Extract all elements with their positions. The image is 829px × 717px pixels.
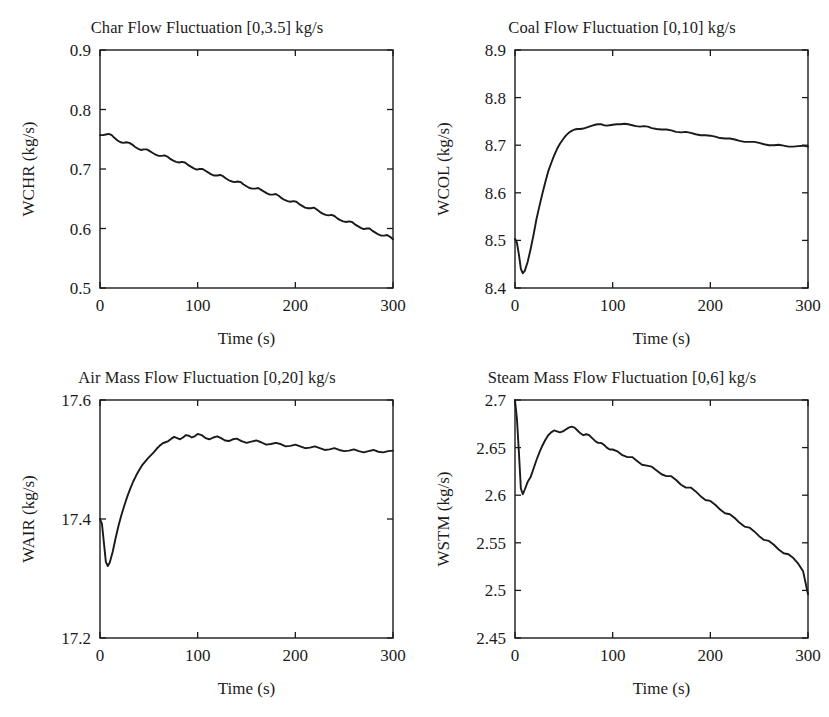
x-axis-label: Time (s) bbox=[633, 329, 690, 348]
data-line-wchr bbox=[100, 134, 393, 239]
y-tick-label: 8.8 bbox=[485, 89, 506, 108]
y-tick-label: 8.7 bbox=[485, 136, 507, 155]
y-tick-label: 2.7 bbox=[485, 391, 507, 410]
x-tick-label: 200 bbox=[698, 296, 724, 315]
y-tick-label: 2.55 bbox=[476, 534, 506, 553]
x-tick-label: 100 bbox=[185, 296, 211, 315]
x-tick-label: 200 bbox=[283, 296, 309, 315]
y-tick-label: 2.45 bbox=[476, 629, 506, 648]
plot-air-mass-flow: 010020030017.217.417.6Time (s)WAIR (kg/s… bbox=[0, 368, 414, 708]
chart-panel-char-flow: Char Flow Fluctuation [0,3.5] kg/s 01002… bbox=[0, 18, 414, 358]
y-axis-label: WSTM (kg/s) bbox=[434, 472, 453, 567]
y-tick-label: 8.6 bbox=[485, 184, 506, 203]
x-tick-label: 0 bbox=[511, 646, 520, 665]
y-tick-label: 8.4 bbox=[485, 279, 507, 298]
y-tick-label: 8.9 bbox=[485, 41, 506, 60]
chart-panel-steam-mass-flow: Steam Mass Flow Fluctuation [0,6] kg/s 0… bbox=[415, 368, 829, 708]
data-line-wcol bbox=[515, 124, 808, 273]
x-tick-label: 300 bbox=[795, 646, 821, 665]
x-tick-label: 100 bbox=[600, 296, 626, 315]
plot-steam-mass-flow: 01002003002.452.52.552.62.652.7Time (s)W… bbox=[415, 368, 829, 708]
x-axis-label: Time (s) bbox=[218, 679, 275, 698]
x-tick-label: 200 bbox=[698, 646, 724, 665]
y-tick-label: 0.9 bbox=[70, 41, 91, 60]
y-tick-label: 17.4 bbox=[61, 510, 91, 529]
x-tick-label: 0 bbox=[511, 296, 520, 315]
data-line-wstm bbox=[515, 400, 808, 594]
x-tick-label: 200 bbox=[283, 646, 309, 665]
y-tick-label: 2.65 bbox=[476, 439, 506, 458]
y-axis-label: WAIR (kg/s) bbox=[19, 475, 38, 562]
y-axis-label: WCOL (kg/s) bbox=[434, 122, 453, 215]
x-tick-label: 0 bbox=[96, 296, 105, 315]
y-tick-label: 17.6 bbox=[61, 391, 91, 410]
x-tick-label: 100 bbox=[185, 646, 211, 665]
plot-char-flow: 01002003000.50.60.70.80.9Time (s)WCHR (k… bbox=[0, 18, 414, 358]
y-tick-label: 2.5 bbox=[485, 581, 506, 600]
y-axis-label: WCHR (kg/s) bbox=[19, 122, 38, 217]
y-tick-label: 0.7 bbox=[70, 160, 92, 179]
y-tick-label: 0.6 bbox=[70, 220, 91, 239]
x-tick-label: 300 bbox=[795, 296, 821, 315]
plot-coal-flow: 01002003008.48.58.68.78.88.9Time (s)WCOL… bbox=[415, 18, 829, 358]
x-tick-label: 100 bbox=[600, 646, 626, 665]
x-axis-label: Time (s) bbox=[218, 329, 275, 348]
x-tick-label: 300 bbox=[380, 296, 406, 315]
y-tick-label: 8.5 bbox=[485, 231, 506, 250]
x-tick-label: 0 bbox=[96, 646, 105, 665]
chart-panel-air-mass-flow: Air Mass Flow Fluctuation [0,20] kg/s 01… bbox=[0, 368, 414, 708]
chart-panel-coal-flow: Coal Flow Fluctuation [0,10] kg/s 010020… bbox=[415, 18, 829, 358]
y-tick-label: 2.6 bbox=[485, 486, 506, 505]
y-tick-label: 0.8 bbox=[70, 101, 91, 120]
y-tick-label: 17.2 bbox=[61, 629, 91, 648]
figure-panel-grid: Char Flow Fluctuation [0,3.5] kg/s 01002… bbox=[0, 0, 829, 717]
data-line-wair bbox=[100, 434, 393, 566]
x-tick-label: 300 bbox=[380, 646, 406, 665]
x-axis-label: Time (s) bbox=[633, 679, 690, 698]
y-tick-label: 0.5 bbox=[70, 279, 91, 298]
